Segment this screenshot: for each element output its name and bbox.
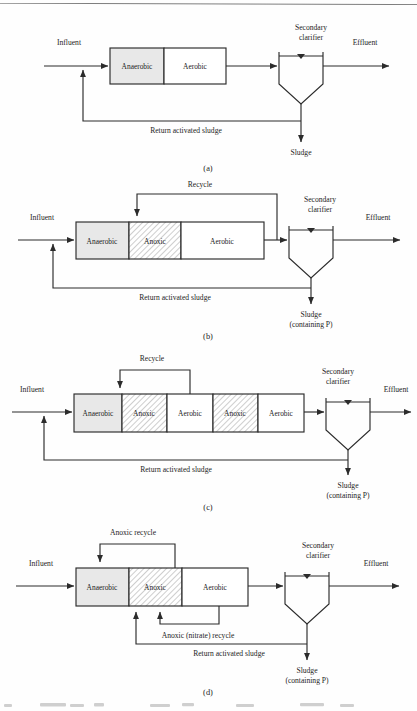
panel-a: Secondary clarifier Influent Anaerobic A…	[0, 8, 417, 178]
recycle-label: Recycle	[188, 180, 213, 189]
anoxic-recycle-line	[100, 544, 175, 568]
clarifier-title-line1: Secondary	[302, 541, 334, 550]
return-sludge-label: Return activated sludge	[140, 465, 212, 474]
effluent-label: Effluent	[366, 213, 392, 222]
influent-label: Influent	[30, 213, 55, 222]
clarifier-title-line2: clarifier	[326, 377, 350, 386]
clarifier-body	[289, 226, 333, 278]
zone-aerobic-1-label: Aerobic	[178, 409, 203, 418]
panel-d: Anoxic recycle Secondary clarifier Influ…	[0, 508, 417, 698]
panel-caption-b: (b)	[203, 332, 213, 341]
panel-caption-d: (d)	[203, 688, 213, 697]
clarifier-title-line1: Secondary	[322, 367, 354, 376]
effluent-label: Effluent	[353, 38, 379, 47]
return-sludge-label: Return activated sludge	[139, 293, 211, 302]
influent-label: Influent	[29, 559, 54, 568]
zone-aerobic-label: Aerobic	[183, 62, 208, 71]
zone-anoxic-label: Anoxic	[144, 583, 166, 592]
clarifier-body	[285, 572, 329, 624]
sludge-label-line1: Sludge	[296, 666, 318, 675]
sludge-label-line2: (containing P)	[326, 491, 370, 500]
sludge-label: Sludge	[290, 148, 312, 157]
clarifier-body	[326, 398, 370, 450]
zone-anoxic-label: Anoxic	[144, 237, 166, 246]
influent-label: Influent	[57, 38, 82, 47]
figure-page: Secondary clarifier Influent Anaerobic A…	[0, 0, 417, 711]
recycle-label: Recycle	[140, 354, 165, 363]
panel-b: Recycle Secondary clarifier Influent Ana…	[0, 172, 417, 344]
clarifier-title-line1: Secondary	[304, 195, 336, 204]
sludge-label-line1: Sludge	[300, 310, 322, 319]
zone-anoxic-1-label: Anoxic	[133, 409, 155, 418]
nitrate-recycle-line	[160, 606, 219, 624]
clarifier-body	[279, 52, 323, 104]
page-top-rule	[0, 3, 417, 5]
effluent-label: Effluent	[384, 385, 410, 394]
return-sludge-label: Return activated sludge	[193, 649, 265, 658]
sludge-label-line2: (containing P)	[289, 320, 333, 329]
clarifier-title-line2: clarifier	[306, 551, 330, 560]
zone-anoxic-2-label: Anoxic	[224, 409, 246, 418]
zone-aerobic-label: Aerobic	[210, 237, 235, 246]
influent-label: Influent	[20, 385, 45, 394]
zone-anaerobic-label: Anaerobic	[83, 409, 114, 418]
panel-c: Recycle Secondary clarifier Influent Ana…	[0, 342, 417, 514]
nitrate-recycle-label: Anoxic (nitrate) recycle	[162, 631, 235, 640]
clarifier-title-line1: Secondary	[295, 23, 327, 32]
clarifier-title-line2: clarifier	[308, 205, 332, 214]
zone-anaerobic-label: Anaerobic	[87, 583, 118, 592]
anoxic-recycle-label: Anoxic recycle	[110, 528, 157, 537]
zone-anaerobic-label: Anaerobic	[87, 237, 118, 246]
sludge-label-line2: (containing P)	[285, 676, 329, 685]
zone-anaerobic-label: Anaerobic	[122, 62, 153, 71]
sludge-label-line1: Sludge	[337, 481, 359, 490]
return-sludge-label: Return activated sludge	[150, 126, 222, 135]
page-footer-smudge	[0, 700, 417, 711]
zone-aerobic-label: Aerobic	[203, 583, 228, 592]
zone-aerobic-2-label: Aerobic	[269, 409, 294, 418]
effluent-label: Effluent	[364, 559, 390, 568]
clarifier-title-line2: clarifier	[299, 33, 323, 42]
recycle-line	[120, 370, 190, 394]
